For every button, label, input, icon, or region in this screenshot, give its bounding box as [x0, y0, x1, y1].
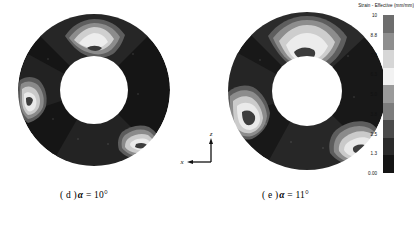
ring-contour-svg-d	[18, 14, 170, 166]
colorbar-band-6	[383, 120, 394, 138]
axis-label-x: x	[179, 158, 184, 166]
colorbar-tick-1: 8.8	[371, 32, 377, 37]
colorbar-tick-2: 7.6	[371, 52, 377, 57]
colorbar-tick-6: 2.5	[371, 131, 377, 136]
colorbar-band-4	[383, 85, 394, 103]
colorbar-swatches	[383, 15, 394, 173]
colorbar-tick-0: 10	[372, 13, 377, 18]
colorbar-band-5	[383, 103, 394, 121]
panel-caption-e-symbol: α	[279, 190, 284, 200]
colorbar-band-2	[383, 50, 394, 68]
colorbar-tick-3: 6.3	[371, 72, 377, 77]
colorbar-tick-labels: 108.87.66.35.03.82.51.30.00	[350, 15, 380, 173]
axis-arrow-z	[209, 138, 213, 144]
strain-field-d	[18, 14, 170, 166]
axis-arrow-x	[187, 160, 193, 164]
axis-triad: z x	[178, 132, 224, 172]
axis-triad-svg: z x	[178, 132, 224, 172]
colorbar-tick-4: 5.0	[371, 92, 377, 97]
colorbar-tick-5: 3.8	[371, 111, 377, 116]
axis-label-z: z	[209, 132, 213, 138]
legend-title: Strain - Effective (mm/mm)	[330, 3, 414, 8]
panel-caption-e-index: ( e )	[262, 190, 278, 200]
panel-caption-e-value: = 11°	[287, 190, 309, 200]
legend-colorbar: Strain - Effective (mm/mm) 108.87.66.35.…	[330, 3, 414, 179]
colorbar-tick-7: 1.3	[371, 151, 377, 156]
colorbar-band-3	[383, 68, 394, 86]
panel-caption-d-value: = 10°	[86, 190, 108, 200]
panel-caption-d-symbol: α	[78, 190, 83, 200]
colorbar-band-0	[383, 15, 394, 33]
panel-caption-e: ( e )α = 11°	[262, 190, 309, 200]
panel-caption-d-index: ( d )	[60, 190, 77, 200]
figure-canvas: z x Strain - Effective (mm/mm) 108.87.66…	[0, 0, 414, 228]
colorbar-band-8	[383, 155, 394, 173]
colorbar-band-1	[383, 33, 394, 51]
panel-caption-d: ( d )α = 10°	[60, 190, 108, 200]
colorbar-tick-8: 0.00	[368, 171, 377, 176]
colorbar-band-7	[383, 138, 394, 156]
ring-contour-plot-d	[18, 14, 170, 166]
